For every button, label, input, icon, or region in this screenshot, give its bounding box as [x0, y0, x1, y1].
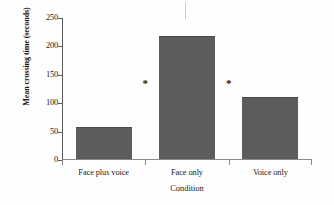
bar: [242, 97, 298, 159]
y-tick-label: 50: [24, 127, 58, 135]
x-tick-mark: [311, 160, 312, 165]
plot-area: **: [62, 18, 312, 160]
y-tick-mark: [58, 132, 63, 133]
bar: [76, 127, 132, 159]
y-tick-mark: [58, 103, 63, 104]
y-axis-tick-labels: 050100150200250: [24, 0, 58, 205]
scan-artifact-mark: [185, 2, 186, 19]
x-tick-mark: [145, 160, 146, 165]
x-category-label: Face plus voice: [78, 168, 129, 177]
y-tick-label: 200: [24, 42, 58, 50]
y-tick-label: 250: [24, 14, 58, 22]
x-tick-mark: [62, 160, 63, 165]
y-axis-line: [62, 18, 63, 160]
x-axis-title: Condition: [170, 184, 204, 193]
y-tick-mark: [58, 18, 63, 19]
y-tick-label: 0: [24, 156, 58, 164]
x-category-label: Voice only: [253, 168, 288, 177]
x-tick-mark: [229, 160, 230, 165]
significance-asterisk: *: [226, 78, 232, 89]
y-tick-mark: [58, 46, 63, 47]
x-category-label: Face only: [171, 168, 203, 177]
y-tick-label: 100: [24, 99, 58, 107]
y-tick-mark: [58, 75, 63, 76]
significance-asterisk: *: [143, 78, 149, 89]
y-tick-label: 150: [24, 71, 58, 79]
bar: [159, 36, 215, 159]
bar-chart-figure: Mean crossing time (seconds) 05010015020…: [0, 0, 334, 205]
